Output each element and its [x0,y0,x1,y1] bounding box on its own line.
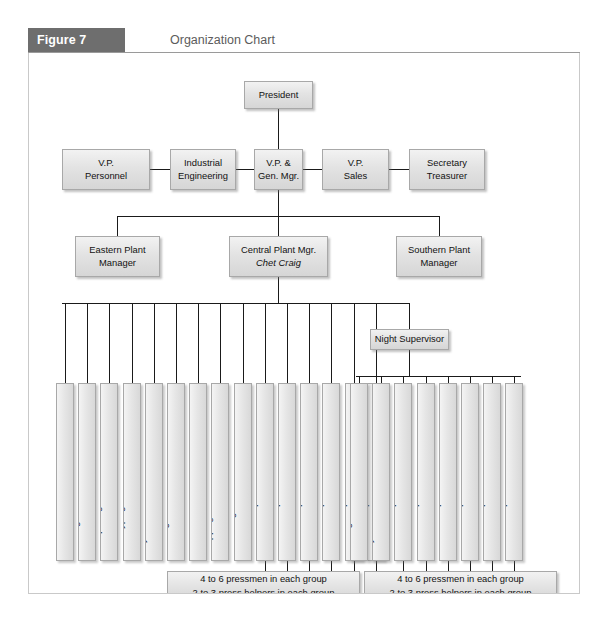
report-box-night-line1: Folding Room Foreman [350,456,352,553]
node-industrial-engineering[interactable]: Industrial Engineering [170,149,236,190]
report-box-central-label: Receiving Room Foreman [234,446,237,553]
node-vp-gen-mgr[interactable]: V.P. & Gen. Mgr. [254,149,303,190]
node-president[interactable]: President [244,81,313,109]
report-box-central[interactable]: Composing Room Foreman [100,383,118,561]
report-box-central-line1: Press Group IV Foreman [322,451,324,553]
connector-central-report-drop [154,303,155,383]
note-right-line2: 2 to 3 press helpers in each group [390,586,532,595]
report-box-night-line1: Press Group IV Foreman [461,451,463,553]
report-box-central[interactable]: Stockroom Foreman(Al Noren) [189,383,207,561]
report-box-night-label: Press Group II Foreman [417,454,420,553]
note-left-pressmen: 4 to 6 pressmen in each group 2 to 3 pre… [167,571,360,594]
note-left-line1: 4 to 6 pressmen in each group [200,572,327,586]
connector-central-report-drop [287,303,288,383]
node-vp-personnel[interactable]: V.P. Personnel [62,149,150,190]
node-southern-plant-manager[interactable]: Southern Plant Manager [396,236,482,277]
node-vp-sales[interactable]: V.P. Sales [322,149,389,190]
node-president-label: President [259,89,299,101]
report-box-central[interactable]: Shipping Room Foreman [211,383,229,561]
report-box-central[interactable]: Layout Foreman [145,383,163,561]
report-box-night[interactable]: Layout Foreman [372,383,390,561]
figure-number-tag: Figure 7 [28,28,125,52]
report-box-central[interactable]: Press Group IV Foreman [322,383,340,561]
report-box-central-line1: Composing Room Foreman [100,440,102,553]
report-box-central-line1: Shipping Room Foreman [211,451,213,553]
connector-central-report-stub [265,561,266,571]
report-box-central-line1: Press Group I Foreman [256,457,258,553]
report-box-central[interactable]: Press Group III Foreman [300,383,318,561]
report-box-central-label: Press Group II Foreman [278,454,281,553]
connector-night-supervisor-down [409,350,410,376]
node-central-plant-person: Chet Craig [241,257,316,269]
report-box-night[interactable]: Press Group II Foreman [417,383,435,561]
report-box-central-line1: Routing Foreman [78,482,80,553]
report-box-night[interactable]: Press Group III Foreman [439,383,457,561]
report-box-night[interactable]: Press Group I Foreman [394,383,412,561]
connector-central-report-bus [62,303,409,304]
report-box-night[interactable]: Press Group IV Foreman [461,383,479,561]
report-box-night-line1: Press Group II Foreman [417,454,419,553]
node-central-plant-manager[interactable]: Central Plant Mgr. Chet Craig [229,236,328,277]
report-box-night-label: Folding Room Foreman [350,456,353,553]
report-box-night[interactable]: Press Group VI Foreman [505,383,523,561]
connector-night-report-stub [514,561,515,571]
connector-central-report-drop [309,303,310,383]
connector-central-report-stub [331,561,332,571]
report-box-central-label: Press Group III Foreman [300,452,303,553]
report-box-central[interactable]: Sterotyping Foreman [123,383,141,561]
node-secretary-treasurer-line1: Secretary [427,157,467,169]
report-box-central-label: Layout Foreman [145,486,148,553]
connector-central-report-drop [132,303,133,383]
node-vp-sales-line1: V.P. [344,157,367,169]
node-secretary-treasurer-line2: Treasurer [427,170,467,182]
report-box-central[interactable]: Press Group I Foreman [256,383,274,561]
report-box-central[interactable]: Routing Foreman [78,383,96,561]
report-box-central-label: Press Group I Foreman [256,457,259,553]
chart-canvas: President V.P. Personnel Industrial Engi… [28,53,580,594]
report-box-central[interactable]: Press Group II Foreman [278,383,296,561]
report-box-central-label: Press Group V Foreman [345,453,348,553]
connector-personnel-to-industrial [150,169,170,170]
report-box-central-label: Routing Foreman [78,482,81,553]
report-box-central-label: Shipping Room Foreman [211,451,214,553]
connector-central-report-stub [287,561,288,571]
node-industrial-engineering-line2: Engineering [178,170,228,182]
node-eastern-plant-manager[interactable]: Eastern Plant Manager [75,236,160,277]
node-secretary-treasurer[interactable]: Secretary Treasurer [409,149,485,190]
connector-night-report-stub [492,561,493,571]
report-box-central-line1: Press Group III Foreman [300,452,302,553]
connector-night-report-stub [470,561,471,571]
connector-central-report-drop [109,303,110,383]
connector-central-report-drop [220,303,221,383]
report-box-central-label: Composing Room Foreman [100,440,103,553]
connector-night-report-stub [448,561,449,571]
connector-night-report-drop [514,376,515,383]
report-box-central-label: Sterotyping Foreman [123,467,126,553]
node-vp-sales-line2: Sales [344,170,367,182]
node-eastern-plant-line1: Eastern Plant [89,244,145,256]
node-eastern-plant-line2: Manager [89,257,145,269]
report-box-central[interactable]: Folding-Room Foreman [167,383,185,561]
figure-title: Organization Chart [125,28,580,52]
report-box-night[interactable]: Folding Room Foreman [350,383,368,561]
connector-night-report-stub [426,561,427,571]
connector-bus-to-night-supervisor [409,303,410,329]
report-box-central-line1: Layout Foreman [145,486,147,553]
report-box-central[interactable]: Receiving Room Foreman [234,383,252,561]
report-box-night-label: Press Group I Foreman [394,457,397,553]
node-night-supervisor[interactable]: Night Supervisor [370,329,449,350]
connector-president-to-vpgm [278,109,279,149]
connector-central-down [278,277,279,303]
report-box-central[interactable]: Office Manager(Marilyn) [56,383,74,561]
figure-header: Figure 7 Organization Chart [28,28,580,53]
connector-night-report-stub [403,561,404,571]
node-night-supervisor-label: Night Supervisor [375,333,444,345]
connector-vpgm-to-sales [303,169,322,170]
connector-night-report-drop [359,376,360,383]
connector-central-report-stub [354,561,355,571]
note-right-pressmen: 4 to 6 pressmen in each group 2 to 3 pre… [364,571,557,594]
connector-central-report-drop [176,303,177,383]
report-box-night-label: Press Group IV Foreman [461,451,464,553]
connector-central-report-drop [65,303,66,383]
report-box-night[interactable]: Press Group V Foreman [483,383,501,561]
